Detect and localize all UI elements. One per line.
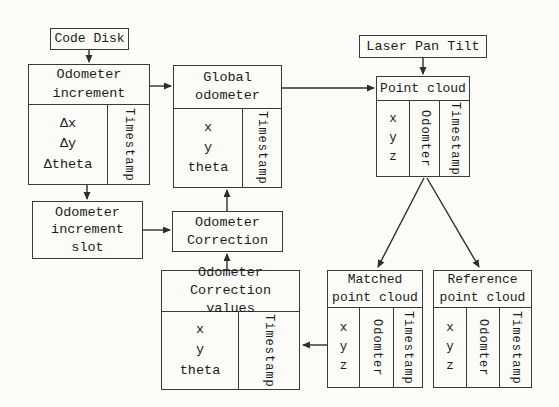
field-delta-theta: Δtheta <box>44 155 93 175</box>
reference-point-cloud-box: Reference point cloud x y z Odomter Time… <box>433 270 532 388</box>
odometer-correction-values-timestamp-label: Timestamp <box>238 312 299 389</box>
global-odometer-title: Global odometer <box>174 66 281 109</box>
global-odometer-timestamp-label: Timestamp <box>242 109 281 187</box>
field-y: y <box>340 338 348 357</box>
matched-point-cloud-fields: x y z <box>328 308 359 387</box>
odometer-correction-label: Odometer Correction <box>187 214 268 249</box>
point-cloud-title: Point cloud <box>377 77 469 101</box>
point-cloud-odometer-label: Odomter <box>409 101 439 176</box>
code-disk-box: Code Disk <box>50 28 129 50</box>
odometer-increment-timestamp-label: Timestamp <box>107 105 149 184</box>
field-theta: theta <box>180 361 221 381</box>
odometer-correction-values-title: Odometer Correction values <box>162 271 299 312</box>
point-cloud-timestamp-label: Timestamp <box>439 101 469 176</box>
field-y: y <box>389 129 397 148</box>
matched-point-cloud-odometer-label: Odomter <box>359 308 393 387</box>
reference-point-cloud-timestamp-label: Timestamp <box>499 308 531 387</box>
field-theta: theta <box>188 158 229 178</box>
matched-point-cloud-box: Matched point cloud x y z Odomter Timest… <box>327 270 423 388</box>
odometer-increment-box: Odometer increment Δx Δy Δtheta Timestam… <box>28 64 150 185</box>
reference-point-cloud-odometer-label: Odomter <box>466 308 499 387</box>
point-cloud-fields: x y z <box>377 101 409 176</box>
laser-pan-tilt-box: Laser Pan Tilt <box>359 35 487 58</box>
field-delta-x: Δx <box>60 114 76 134</box>
odometer-increment-slot-box: Odometer increment slot <box>32 201 143 259</box>
reference-point-cloud-title: Reference point cloud <box>434 271 531 308</box>
field-x: x <box>446 319 454 338</box>
odometer-correction-values-fields: x y theta <box>162 312 238 389</box>
odometer-correction-box: Odometer Correction <box>172 211 283 252</box>
field-y: y <box>204 138 212 158</box>
odometer-increment-fields: Δx Δy Δtheta <box>29 105 107 184</box>
field-x: x <box>340 319 348 338</box>
field-x: x <box>196 320 204 340</box>
matched-point-cloud-title: Matched point cloud <box>328 271 422 308</box>
global-odometer-fields: x y theta <box>174 109 242 187</box>
point-cloud-box: Point cloud x y z Odomter Timestamp <box>376 76 470 177</box>
field-z: z <box>340 357 348 376</box>
odometer-correction-values-box: Odometer Correction values x y theta Tim… <box>161 270 300 390</box>
odometer-increment-title: Odometer increment <box>29 65 149 105</box>
field-y: y <box>196 340 204 360</box>
reference-point-cloud-fields: x y z <box>434 308 466 387</box>
odometer-increment-slot-label: Odometer increment slot <box>51 204 124 257</box>
field-x: x <box>204 118 212 138</box>
arrow-point-cloud-to-reference <box>427 178 479 267</box>
global-odometer-box: Global odometer x y theta Timestamp <box>173 65 282 188</box>
arrow-point-cloud-to-matched <box>378 178 424 267</box>
laser-pan-tilt-label: Laser Pan Tilt <box>366 38 479 56</box>
diagram-canvas: Code Disk Odometer increment Δx Δy Δthet… <box>0 0 559 407</box>
code-disk-label: Code Disk <box>54 31 124 48</box>
field-z: z <box>446 357 454 376</box>
field-x: x <box>389 110 397 129</box>
field-z: z <box>389 148 397 167</box>
matched-point-cloud-timestamp-label: Timestamp <box>393 308 422 387</box>
field-y: y <box>446 338 454 357</box>
field-delta-y: Δy <box>60 134 76 154</box>
